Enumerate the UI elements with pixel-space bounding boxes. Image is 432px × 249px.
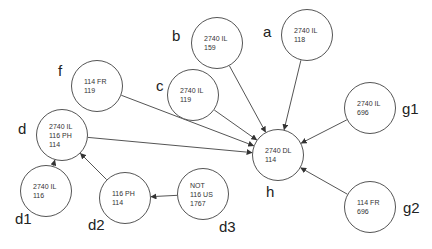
node-f: 114 FR 119 xyxy=(71,60,123,112)
edge-g2-to-h xyxy=(301,168,348,194)
node-d2-text: 116 PH 114 xyxy=(112,189,135,207)
node-d2: 116 PH 114 xyxy=(99,172,151,224)
node-d1-label: d1 xyxy=(15,211,32,226)
node-c-text: 2740 IL 119 xyxy=(180,86,203,104)
node-g2: 114 FR 696 xyxy=(344,181,396,233)
node-a-label: a xyxy=(263,24,271,39)
node-d3-label: d3 xyxy=(219,219,236,234)
edge-g1-to-h xyxy=(301,120,347,143)
node-g1: 2740 IL 696 xyxy=(344,82,396,134)
node-b: 2740 IL 159 xyxy=(191,17,243,69)
node-b-text: 2740 IL 159 xyxy=(204,34,227,52)
node-d: 2740 IL 116 PH 114 xyxy=(36,109,88,161)
node-d3: NOT 116 US 1767 xyxy=(177,168,229,220)
node-h-text: 2740 DL 114 xyxy=(265,146,291,164)
node-b-label: b xyxy=(172,28,180,43)
node-g2-label: g2 xyxy=(403,200,420,215)
node-g1-label: g1 xyxy=(402,101,419,116)
node-c-label: c xyxy=(156,78,164,93)
node-h: 2740 DL 114 xyxy=(252,129,304,181)
node-f-label: f xyxy=(58,63,62,78)
node-a-text: 2740 IL 118 xyxy=(294,26,317,44)
node-g1-text: 2740 IL 696 xyxy=(357,99,380,117)
node-d1-text: 2740 IL 116 xyxy=(33,182,56,200)
node-d-text: 2740 IL 116 PH 114 xyxy=(49,122,72,149)
node-a: 2740 IL 118 xyxy=(281,9,333,61)
node-h-label: h xyxy=(266,184,274,199)
edge-b-to-h xyxy=(229,66,265,132)
node-d3-text: NOT 116 US 1767 xyxy=(190,181,213,208)
edge-c-to-h xyxy=(214,110,257,140)
node-c: 2740 IL 119 xyxy=(167,69,219,121)
node-d-label: d xyxy=(18,121,26,136)
node-f-text: 114 FR 119 xyxy=(84,77,106,95)
node-d2-label: d2 xyxy=(88,217,105,232)
edge-a-to-h xyxy=(284,60,301,129)
edge-d3-to-d2 xyxy=(151,195,177,196)
edge-d-to-h xyxy=(88,137,252,152)
diagram-canvas: 2740 IL 118 a 2740 IL 159 b 2740 IL 119 … xyxy=(0,0,432,249)
edge-d2-to-d xyxy=(80,153,106,179)
node-g2-text: 114 FR 696 xyxy=(357,198,379,216)
